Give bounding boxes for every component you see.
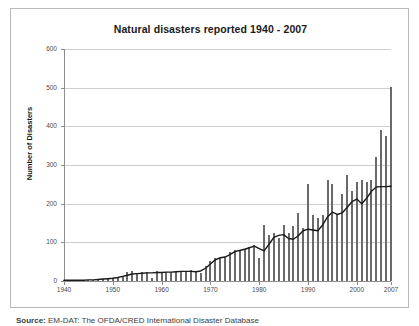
plot-area: 0100200300400500600 19401950196019701980…: [64, 49, 391, 281]
x-tick-mark: [162, 282, 163, 285]
bar: [185, 272, 187, 281]
bar: [219, 257, 221, 281]
bar: [78, 280, 80, 281]
bar: [317, 218, 319, 281]
y-tick-label: 400: [27, 122, 57, 129]
x-tick-label: 1970: [190, 286, 230, 293]
bar: [385, 136, 387, 281]
y-tick-label: 600: [27, 45, 57, 52]
x-tick-mark: [391, 282, 392, 285]
bar: [322, 215, 324, 281]
x-tick-label: 2007: [371, 286, 411, 293]
bar: [195, 272, 197, 281]
bar: [87, 280, 89, 281]
x-tick-label: 1990: [288, 286, 328, 293]
y-axis-line: [64, 49, 65, 282]
x-tick-mark: [357, 282, 358, 285]
x-tick-label: 1960: [142, 286, 182, 293]
bar: [283, 225, 285, 281]
bar: [336, 214, 338, 281]
bar: [161, 272, 163, 281]
bar: [307, 184, 309, 281]
x-tick-mark: [308, 282, 309, 285]
bar: [258, 258, 260, 281]
bar: [253, 245, 255, 281]
bar: [151, 278, 153, 281]
bar: [122, 276, 124, 281]
bar: [288, 233, 290, 281]
bar: [297, 213, 299, 281]
y-tick-label: 100: [27, 238, 57, 245]
bar: [229, 252, 231, 281]
x-tick-mark: [210, 282, 211, 285]
x-tick-mark: [259, 282, 260, 285]
bar: [239, 251, 241, 281]
y-tick-label: 500: [27, 84, 57, 91]
bar: [97, 279, 99, 281]
bar: [278, 238, 280, 281]
bar: [112, 278, 114, 281]
bar: [214, 258, 216, 281]
y-tick-label: 200: [27, 200, 57, 207]
bar: [102, 279, 104, 281]
bar: [200, 273, 202, 281]
bar: [351, 191, 353, 281]
source-caption-label: Source:: [16, 316, 46, 325]
bar: [273, 233, 275, 281]
bar: [73, 280, 75, 281]
x-tick-label: 1980: [239, 286, 279, 293]
bar: [375, 157, 377, 281]
bar: [268, 235, 270, 281]
chart-title: Natural disasters reported 1940 - 2007: [11, 23, 410, 35]
bar: [224, 257, 226, 281]
bar: [170, 272, 172, 281]
bar: [141, 272, 143, 281]
bar: [331, 184, 333, 281]
x-tick-label: 1940: [44, 286, 84, 293]
bar: [380, 130, 382, 281]
bar: [68, 280, 70, 281]
bar: [390, 87, 392, 281]
bar: [292, 226, 294, 281]
bar: [146, 272, 148, 281]
bar: [63, 280, 65, 281]
source-caption-text: EM-DAT: The OFDA/CRED International Disa…: [48, 316, 259, 325]
bar: [117, 277, 119, 281]
bar: [248, 247, 250, 281]
figure-container: Natural disasters reported 1940 - 2007 N…: [0, 0, 419, 326]
x-tick-label: 1950: [93, 286, 133, 293]
bar: [136, 274, 138, 281]
bar: [156, 271, 158, 281]
y-axis-label: Number of Disasters: [25, 84, 34, 204]
x-tick-mark: [113, 282, 114, 285]
source-caption: Source: EM-DAT: The OFDA/CRED Internatio…: [16, 316, 259, 325]
bar: [107, 279, 109, 281]
y-tick-label: 0: [27, 277, 57, 284]
bar: [205, 266, 207, 281]
bar: [346, 175, 348, 281]
bar: [361, 180, 363, 281]
bar: [341, 194, 343, 281]
bar: [312, 215, 314, 281]
x-tick-mark: [64, 282, 65, 285]
gridline: [64, 49, 391, 50]
bar: [370, 180, 372, 281]
gridline: [64, 165, 391, 166]
bar: [302, 228, 304, 281]
gridline: [64, 88, 391, 89]
bar: [83, 280, 85, 281]
bar: [327, 180, 329, 281]
bar: [263, 225, 265, 281]
gridline: [64, 126, 391, 127]
bar: [180, 271, 182, 281]
bar: [92, 280, 94, 281]
bar: [126, 272, 128, 281]
bar: [244, 249, 246, 281]
bar: [175, 271, 177, 281]
bar: [356, 182, 358, 281]
y-tick-label: 300: [27, 161, 57, 168]
chart-frame: Natural disasters reported 1940 - 2007 N…: [10, 8, 409, 308]
bar: [234, 250, 236, 281]
bar: [131, 271, 133, 281]
bar: [165, 272, 167, 281]
